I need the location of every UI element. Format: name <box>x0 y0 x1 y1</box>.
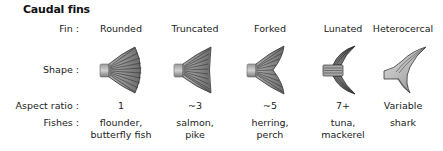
forked-fin-icon <box>241 45 301 95</box>
fishes-truncated: salmon, pike <box>158 117 232 140</box>
row-label-fin: Fin : <box>59 23 79 34</box>
fin-type-forked: Forked <box>233 23 307 35</box>
fin-type-truncated: Truncated <box>158 23 232 35</box>
fishes-truncated-line2: pike <box>158 129 232 141</box>
row-label-fishes: Fishes : <box>44 117 79 128</box>
fishes-heterocercal-line1: shark <box>366 117 440 129</box>
heterocercal-fin-icon <box>372 45 432 95</box>
aspect-ratio-truncated: ~3 <box>158 100 232 112</box>
rounded-fin-icon <box>94 45 154 95</box>
aspect-ratio-forked: ~5 <box>233 100 307 112</box>
row-label-aspect-ratio: Aspect ratio : <box>16 100 79 111</box>
fishes-lunated-line2: mackerel <box>306 129 380 141</box>
aspect-ratio-rounded: 1 <box>84 100 158 112</box>
fishes-rounded: flounder, butterfly fish <box>84 117 158 140</box>
fishes-truncated-line1: salmon, <box>158 117 232 129</box>
fishes-rounded-line1: flounder, <box>84 117 158 129</box>
fishes-forked: herring, perch <box>233 117 307 140</box>
row-label-shape: Shape : <box>43 64 79 75</box>
lunated-fin-icon <box>307 45 367 95</box>
fin-type-rounded: Rounded <box>84 23 158 35</box>
fishes-forked-line2: perch <box>233 129 307 141</box>
aspect-ratio-heterocercal: Variable <box>366 100 440 112</box>
fin-type-heterocercal: Heterocercal <box>366 23 440 35</box>
fishes-forked-line1: herring, <box>233 117 307 129</box>
fishes-rounded-line2: butterfly fish <box>84 129 158 141</box>
truncated-fin-icon <box>168 45 228 95</box>
diagram-title: Caudal fins <box>23 3 90 16</box>
fishes-heterocercal: shark <box>366 117 440 129</box>
